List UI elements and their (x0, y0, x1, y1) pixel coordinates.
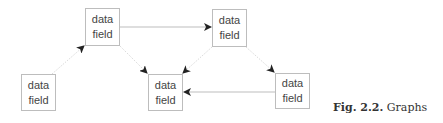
node-label-line1: data (219, 13, 240, 28)
figure-label: Fig. 2.2. (333, 101, 383, 114)
node-data-field-bottom-left: data field (21, 74, 56, 111)
figure-caption: Fig. 2.2. Graphs (333, 101, 427, 114)
node-label-line2: field (92, 27, 112, 42)
node-label-line2: field (282, 91, 302, 106)
node-label-line2: field (219, 28, 239, 43)
figure-title: Graphs (387, 101, 427, 114)
node-data-field-bottom-right: data field (275, 73, 310, 109)
edge-n3-n1 (52, 46, 84, 74)
node-label-line2: field (28, 93, 48, 108)
node-label-line1: data (282, 76, 303, 91)
node-data-field-top-right: data field (212, 9, 247, 47)
node-data-field-top-left: data field (85, 8, 120, 46)
edge-n2-n4 (183, 47, 212, 73)
node-data-field-center: data field (148, 74, 183, 111)
edge-n1-n4 (120, 46, 147, 73)
node-label-line1: data (28, 78, 49, 93)
edge-n2-n5 (246, 47, 274, 72)
node-label-line2: field (155, 93, 175, 108)
node-label-line1: data (92, 12, 113, 27)
node-label-line1: data (155, 78, 176, 93)
